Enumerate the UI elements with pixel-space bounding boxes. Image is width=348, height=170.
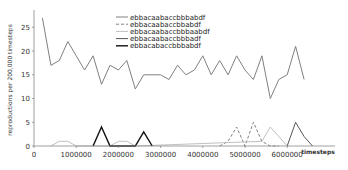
y-tick-label: 20 <box>21 48 30 56</box>
series-line-4 <box>287 122 312 146</box>
y-axis-title: reproductions per 200,000 timesteps <box>6 24 14 136</box>
y-ticks: 0510152025 <box>21 24 34 151</box>
x-tick-label: 0 <box>32 151 36 159</box>
series-line-3 <box>51 127 287 146</box>
y-tick-label: 15 <box>21 71 30 79</box>
x-axis-title: timesteps <box>301 148 335 156</box>
y-tick-label: 10 <box>21 95 30 103</box>
y-tick-label: 5 <box>26 119 30 127</box>
legend-label: ebbacabaccbbbabdf <box>130 42 202 50</box>
x-tick-label: 6000000 <box>272 151 303 159</box>
series-line-5 <box>93 127 152 146</box>
x-ticks: 0100000020000003000000400000050000006000… <box>32 146 303 159</box>
legend: ebbacaabaccbbbabdfebbacaabaccbbabdfebbac… <box>116 14 210 51</box>
x-tick-label: 4000000 <box>187 151 218 159</box>
x-tick-label: 2000000 <box>103 151 134 159</box>
line-chart: 0510152025 01000000200000030000004000000… <box>0 0 348 170</box>
x-tick-label: 5000000 <box>229 151 260 159</box>
y-tick-label: 0 <box>26 143 30 151</box>
x-tick-label: 1000000 <box>61 151 92 159</box>
x-tick-label: 3000000 <box>145 151 176 159</box>
y-tick-label: 25 <box>21 24 30 32</box>
